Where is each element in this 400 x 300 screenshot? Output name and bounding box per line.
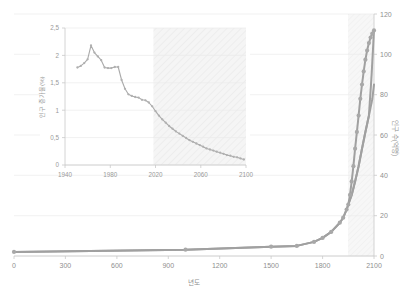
marker-point (83, 62, 85, 64)
marker-point (90, 44, 92, 46)
marker-point (110, 67, 112, 69)
inset-xtick-2100: 2100 (239, 171, 254, 178)
main-ytick-100: 100 (380, 51, 392, 58)
marker-point (312, 240, 316, 244)
marker-point (353, 147, 357, 151)
population-chart-figure: 0 20 40 60 80 100 120 0 (0, 0, 400, 300)
marker-point (171, 128, 173, 130)
marker-point (165, 122, 167, 124)
marker-point (243, 158, 245, 160)
inset-xtick-1940: 1940 (58, 171, 73, 178)
marker-point (161, 118, 163, 120)
marker-point (345, 208, 349, 212)
marker-point (182, 135, 184, 137)
marker-point (134, 96, 136, 98)
marker-point (357, 114, 361, 118)
marker-point (117, 66, 119, 68)
marker-point (365, 49, 369, 53)
marker-point (372, 28, 376, 32)
marker-point (355, 130, 359, 134)
marker-point (369, 35, 373, 39)
marker-point (188, 139, 190, 141)
marker-point (141, 99, 143, 101)
main-ytick-40: 40 (380, 172, 388, 179)
marker-point (360, 82, 364, 86)
inset-xtick-2060: 2060 (194, 171, 209, 178)
marker-point (195, 142, 197, 144)
marker-point (86, 58, 88, 60)
marker-point (358, 97, 362, 101)
marker-point (76, 66, 78, 68)
marker-point (137, 96, 139, 98)
marker-point (178, 132, 180, 134)
main-xtick-600: 600 (111, 262, 123, 269)
marker-point (205, 147, 207, 149)
marker-point (367, 41, 371, 45)
marker-point (239, 157, 241, 159)
marker-point (185, 137, 187, 139)
marker-point (212, 149, 214, 151)
inset-ytick-2: 2 (55, 52, 59, 59)
main-y-tick-labels: 0 20 40 60 80 100 120 (380, 11, 392, 260)
marker-point (103, 66, 105, 68)
marker-point (346, 202, 350, 206)
marker-point (120, 79, 122, 81)
marker-point (93, 51, 95, 53)
marker-point (348, 193, 352, 197)
main-y-ticks (374, 14, 377, 256)
marker-point (269, 245, 273, 249)
inset-y-axis-title: 인구 증가율(%) (38, 76, 46, 117)
marker-point (12, 250, 16, 254)
marker-point (216, 151, 218, 153)
marker-point (127, 93, 129, 95)
marker-point (233, 156, 235, 158)
marker-point (329, 230, 333, 234)
main-ytick-120: 120 (380, 11, 392, 18)
marker-point (219, 152, 221, 154)
inset-ytick-25: 2,5 (50, 24, 59, 31)
inset-xtick-2020: 2020 (148, 171, 163, 178)
main-x-ticks (14, 256, 374, 259)
marker-point (154, 110, 156, 112)
main-x-tick-labels: 0 300 600 900 1200 1500 1800 2100 (12, 262, 382, 269)
marker-point (175, 130, 177, 132)
inset-x-tick-labels: 1940 1980 2020 2060 2100 (58, 171, 254, 178)
main-x-axis-title: 년도 (188, 278, 200, 286)
marker-point (202, 146, 204, 148)
marker-point (338, 221, 342, 225)
marker-point (226, 154, 228, 156)
marker-point (124, 88, 126, 90)
inset-xtick-1980: 1980 (103, 171, 118, 178)
marker-point (199, 144, 201, 146)
marker-point (192, 141, 194, 143)
marker-point (144, 99, 146, 101)
main-xtick-0: 0 (12, 262, 16, 269)
main-y-axis-title: 인구 수(억명) (391, 120, 400, 156)
main-xtick-1800: 1800 (315, 262, 331, 269)
inset-ytick-0: 0 (55, 161, 59, 168)
marker-point (341, 216, 345, 220)
marker-point (229, 155, 231, 157)
main-ytick-60: 60 (380, 132, 388, 139)
main-ytick-0: 0 (380, 253, 384, 260)
marker-point (222, 153, 224, 155)
main-ytick-20: 20 (380, 212, 388, 219)
inset-ytick-1: 1 (55, 107, 59, 114)
marker-point (236, 156, 238, 158)
inset-ytick-15: 1,5 (50, 79, 59, 86)
marker-point (209, 148, 211, 150)
marker-point (362, 69, 366, 73)
marker-point (158, 114, 160, 116)
marker-point (80, 65, 82, 67)
main-ytick-80: 80 (380, 91, 388, 98)
main-xtick-2100: 2100 (366, 262, 382, 269)
marker-point (131, 95, 133, 97)
main-xtick-1200: 1200 (212, 262, 228, 269)
marker-point (321, 236, 325, 240)
marker-point (97, 55, 99, 57)
marker-point (107, 67, 109, 69)
marker-point (363, 58, 367, 62)
marker-point (168, 125, 170, 127)
main-xtick-1500: 1500 (263, 262, 279, 269)
marker-point (151, 105, 153, 107)
